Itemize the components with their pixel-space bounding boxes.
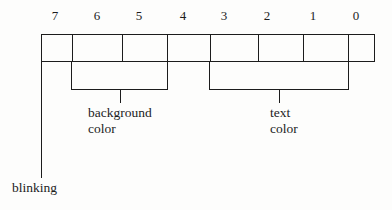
bit-label-7: 7 bbox=[44, 8, 66, 24]
bit-label-5: 5 bbox=[128, 8, 150, 24]
background-color-caption: background color bbox=[88, 105, 152, 137]
blinking-caption: blinking bbox=[12, 180, 57, 196]
cell-divider-5-4 bbox=[167, 34, 168, 62]
byte-box bbox=[41, 34, 375, 62]
cell-divider-4-3 bbox=[210, 34, 211, 62]
background-color-bracket-stem bbox=[120, 90, 121, 103]
bit-label-0: 0 bbox=[345, 8, 367, 24]
text-color-bracket bbox=[209, 62, 349, 90]
bit-label-3: 3 bbox=[213, 8, 235, 24]
text-color-caption-line1: text bbox=[270, 105, 298, 121]
bit-label-4: 4 bbox=[172, 8, 194, 24]
text-color-caption: text color bbox=[270, 105, 298, 137]
blinking-pointer-line bbox=[41, 62, 42, 178]
background-color-bracket bbox=[71, 62, 168, 90]
bit-label-6: 6 bbox=[86, 8, 108, 24]
cell-divider-6-5 bbox=[122, 34, 123, 62]
cell-divider-1-0 bbox=[348, 34, 349, 62]
cell-divider-2-1 bbox=[303, 34, 304, 62]
cell-divider-7-6 bbox=[72, 34, 73, 62]
bit-label-1: 1 bbox=[302, 8, 324, 24]
background-color-caption-line2: color bbox=[88, 121, 152, 137]
bit-field-diagram: 7 6 5 4 3 2 1 0 background color text co… bbox=[0, 0, 392, 210]
background-color-caption-line1: background bbox=[88, 105, 152, 121]
text-color-caption-line2: color bbox=[270, 121, 298, 137]
bit-label-2: 2 bbox=[256, 8, 278, 24]
text-color-bracket-stem bbox=[279, 90, 280, 103]
cell-divider-3-2 bbox=[258, 34, 259, 62]
